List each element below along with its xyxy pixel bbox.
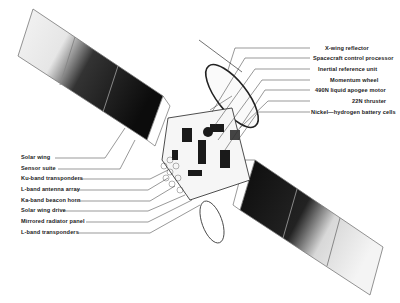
solar-wing-left [18,9,170,146]
label-solar-wing: Solar wing [21,154,50,161]
label-ka-band-beacon-horn: Ka-band beacon horn [21,197,80,204]
label-l-band-antenna-array: L-band antenna array [21,186,80,193]
label-mirrored-radiator-panel: Mirrored radiator panel [21,218,85,225]
label-22n-thruster: 22N thruster [352,98,386,105]
solar-wing-right [233,160,383,295]
label-sensor-suite: Sensor suite [21,165,56,172]
label-spacecraft-control-processor: Spacecraft control processor [313,55,394,62]
label-solar-wing-drive: Solar wing drive [21,207,66,214]
label-inertial-reference-unit: Inertial reference unit [318,66,377,73]
satellite-body [161,108,250,246]
label-x-wing-reflector: X-wing reflector [325,45,369,52]
label-nickel-hydrogen-battery: Nickel—hydrogen battery cells [311,109,396,116]
label-490n-apogee-motor: 490N liquid apogee motor [315,87,386,94]
label-momentum-wheel: Momentum wheel [330,77,378,84]
label-l-band-transponders: L-band transponders [21,229,79,236]
label-ku-band-transponders: Ku-band transponders [21,175,83,182]
